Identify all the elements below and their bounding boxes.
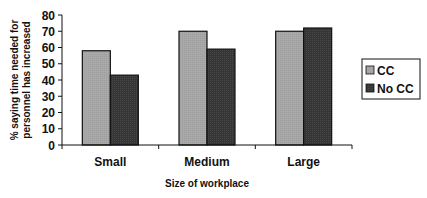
y-tick-label: 70 (42, 25, 56, 39)
x-tick-label: Medium (184, 155, 229, 169)
bar-cc-large (276, 31, 304, 145)
legend-label-cc: CC (377, 64, 395, 78)
x-tick-label: Large (287, 155, 320, 169)
y-tick-label: 80 (42, 9, 56, 23)
bar-no-cc-medium (207, 49, 235, 145)
bar-no-cc-large (304, 28, 332, 145)
bar-no-cc-small (110, 75, 138, 145)
y-tick-label: 50 (42, 57, 56, 71)
legend-label-no-cc: No CC (377, 82, 414, 96)
bar-chart: % saying time needed for personnel has i… (0, 0, 427, 198)
y-axis-title-line-2: personnel has increased (21, 21, 32, 138)
legend-swatch-no-cc (366, 84, 374, 92)
y-tick-label: 10 (42, 122, 56, 136)
y-axis: 01020304050607080 (42, 9, 62, 153)
y-axis-title: % saying time needed for personnel has i… (9, 20, 32, 141)
bar-cc-small (82, 51, 110, 145)
y-tick-label: 20 (42, 106, 56, 120)
bars (82, 28, 331, 145)
x-axis-title: Size of workplace (165, 178, 249, 189)
bar-cc-medium (179, 31, 207, 145)
y-axis-title-line-1: % saying time needed for (9, 20, 20, 141)
y-tick-label: 60 (42, 41, 56, 55)
legend: CC No CC (362, 59, 420, 99)
legend-swatch-cc (366, 66, 374, 74)
y-tick-label: 0 (48, 139, 55, 153)
y-tick-label: 30 (42, 90, 56, 104)
x-axis: SmallMediumLarge (62, 145, 352, 169)
x-tick-label: Small (94, 155, 126, 169)
y-tick-label: 40 (42, 74, 56, 88)
